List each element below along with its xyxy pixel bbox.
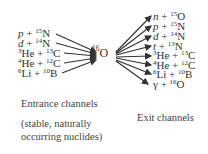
entrance-channel: 6Li + 10B <box>18 68 57 79</box>
entrance-caption: Entrance channels <box>21 97 98 110</box>
compound-nucleus-o16: 16O <box>92 46 108 61</box>
entrance-note-line1: (stable, naturally <box>21 117 92 130</box>
exit-channel: γ + 16O <box>153 79 185 90</box>
exit-caption: Exit channels <box>137 111 194 124</box>
entrance-note-line2: occurring nuclides) <box>21 130 102 143</box>
